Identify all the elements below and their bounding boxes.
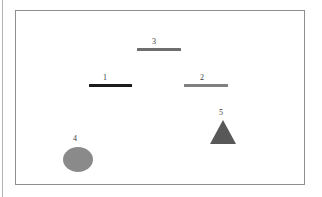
figure-root: 1 2 3 4 5: [0, 0, 322, 197]
shape-label-1: 1: [99, 73, 111, 82]
shape-label-5: 5: [215, 108, 227, 117]
triangle-shape-5[interactable]: [210, 120, 236, 144]
shape-label-3: 3: [148, 37, 160, 46]
figure-frame-border: 1 2 3 4 5: [15, 10, 305, 185]
bar-shape-2[interactable]: [184, 84, 228, 87]
shape-label-2: 2: [196, 73, 208, 82]
ellipse-shape-4[interactable]: [63, 147, 93, 172]
bar-shape-1[interactable]: [89, 84, 132, 87]
page-gutter-rule: [2, 0, 3, 197]
shape-label-4: 4: [69, 134, 81, 143]
bar-shape-3[interactable]: [137, 48, 181, 51]
